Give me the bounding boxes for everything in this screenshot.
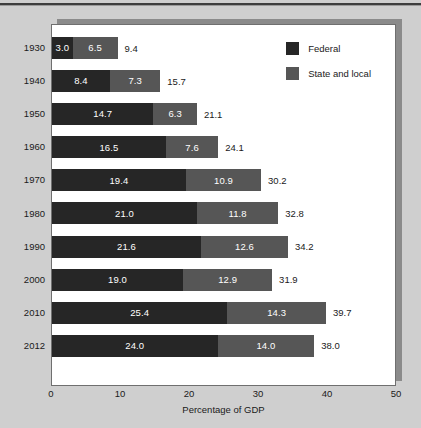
bar-total-label: 38.0	[321, 335, 340, 357]
bar-row: 21.612.634.2	[52, 231, 395, 264]
y-axis-category-labels: 1930194019501960197019801990200020102012	[0, 31, 49, 362]
stacked-bar[interactable]: 19.410.9	[52, 169, 261, 191]
bar-segment-value-label: 7.6	[185, 143, 199, 153]
bar-segment-value-label: 6.5	[88, 43, 102, 53]
y-axis-label: 1940	[0, 64, 49, 97]
bar-segment-federal[interactable]: 21.0	[52, 202, 197, 224]
bar-segment-value-label: 14.0	[256, 341, 275, 351]
bar-segment-value-label: 21.0	[115, 209, 134, 219]
y-axis-label: 1990	[0, 230, 49, 263]
page-bottom-text-sliver	[0, 419, 421, 428]
y-axis-label: 1960	[0, 130, 49, 163]
legend-swatch-federal	[286, 42, 299, 55]
stacked-bar[interactable]: 19.012.9	[52, 269, 272, 291]
bar-segment-state-and-local[interactable]: 14.0	[218, 335, 315, 357]
top-rule-highlight	[0, 5, 421, 6]
bar-row: 21.011.832.8	[52, 197, 395, 230]
bar-segment-state-and-local[interactable]: 6.3	[153, 103, 196, 125]
bar-total-label: 24.1	[225, 136, 244, 158]
bar-total-label: 9.4	[125, 37, 138, 59]
bar-segment-federal[interactable]: 16.5	[52, 136, 166, 158]
bar-segment-value-label: 7.3	[128, 76, 142, 86]
stacked-bar[interactable]: 24.014.0	[52, 335, 314, 357]
bar-row: 19.410.930.2	[52, 164, 395, 197]
stacked-bar[interactable]: 21.011.8	[52, 202, 278, 224]
bar-segment-state-and-local[interactable]: 11.8	[197, 202, 278, 224]
bar-segment-value-label: 14.7	[93, 109, 112, 119]
y-axis-label: 1970	[0, 163, 49, 196]
bar-segment-state-and-local[interactable]: 14.3	[227, 302, 326, 324]
bar-segment-state-and-local[interactable]: 10.9	[186, 169, 261, 191]
legend-item-state-and-local: State and local	[286, 67, 371, 80]
y-axis-label: 2012	[0, 329, 49, 362]
stacked-bar[interactable]: 21.612.6	[52, 236, 288, 258]
bar-segment-value-label: 8.4	[74, 76, 88, 86]
x-axis-tick-label: 30	[253, 388, 264, 399]
bar-segment-value-label: 3.0	[56, 43, 70, 53]
x-axis-ticks: 01020304050	[51, 388, 396, 404]
bar-total-label: 21.1	[204, 103, 223, 125]
bar-row: 16.57.624.1	[52, 131, 395, 164]
bar-total-label: 31.9	[279, 269, 298, 291]
bar-segment-federal[interactable]: 3.0	[52, 37, 73, 59]
stacked-bar[interactable]: 16.57.6	[52, 136, 218, 158]
x-axis-tick-label: 40	[322, 388, 333, 399]
chart-figure: 1930194019501960197019801990200020102012…	[0, 0, 421, 428]
bar-segment-value-label: 10.9	[214, 176, 233, 186]
bar-segment-value-label: 12.9	[218, 275, 237, 285]
bar-row: 24.014.038.0	[52, 330, 395, 363]
bar-segment-value-label: 14.3	[267, 308, 286, 318]
bar-segment-value-label: 16.5	[99, 143, 118, 153]
bar-segment-federal[interactable]: 25.4	[52, 302, 227, 324]
bar-segment-state-and-local[interactable]: 6.5	[73, 37, 118, 59]
stacked-bar[interactable]: 25.414.3	[52, 302, 326, 324]
stacked-bar[interactable]: 3.06.5	[52, 37, 118, 59]
bar-segment-value-label: 12.6	[235, 242, 254, 252]
bar-segment-federal[interactable]: 14.7	[52, 103, 153, 125]
bar-segment-value-label: 21.6	[117, 242, 136, 252]
bar-segment-value-label: 6.3	[168, 109, 182, 119]
bar-total-label: 34.2	[295, 236, 314, 258]
legend-label-state-and-local: State and local	[308, 68, 371, 79]
bar-segment-federal[interactable]: 24.0	[52, 335, 218, 357]
stacked-bar[interactable]: 14.76.3	[52, 103, 197, 125]
y-axis-label: 1950	[0, 97, 49, 130]
bar-segment-state-and-local[interactable]: 12.9	[183, 269, 272, 291]
bar-row: 19.012.931.9	[52, 264, 395, 297]
x-axis-tick-label: 10	[115, 388, 126, 399]
legend-item-federal: Federal	[286, 42, 371, 55]
plot-area: 3.06.59.48.47.315.714.76.321.116.57.624.…	[52, 25, 395, 385]
y-axis-label: 2000	[0, 263, 49, 296]
bar-segment-state-and-local[interactable]: 7.3	[110, 70, 160, 92]
legend-label-federal: Federal	[308, 43, 340, 54]
bar-segment-value-label: 19.0	[108, 275, 127, 285]
bar-segment-state-and-local[interactable]: 7.6	[166, 136, 218, 158]
bar-row: 25.414.339.7	[52, 297, 395, 330]
bar-total-label: 39.7	[333, 302, 352, 324]
bar-segment-federal[interactable]: 8.4	[52, 70, 110, 92]
x-axis-title: Percentage of GDP	[51, 404, 396, 415]
bar-segment-value-label: 11.8	[229, 209, 247, 219]
bar-segment-value-label: 24.0	[125, 341, 144, 351]
y-axis-label: 1980	[0, 196, 49, 229]
chart-legend: Federal State and local	[286, 42, 371, 92]
stacked-bar[interactable]: 8.47.3	[52, 70, 160, 92]
bar-total-label: 15.7	[167, 70, 186, 92]
x-axis-tick-label: 50	[391, 388, 402, 399]
bar-total-label: 32.8	[285, 202, 304, 224]
legend-swatch-state-and-local	[286, 67, 299, 80]
bar-segment-federal[interactable]: 21.6	[52, 236, 201, 258]
bar-segment-federal[interactable]: 19.0	[52, 269, 183, 291]
chart-plot-panel: 3.06.59.48.47.315.714.76.321.116.57.624.…	[51, 24, 396, 386]
bar-segment-federal[interactable]: 19.4	[52, 169, 186, 191]
bar-segment-value-label: 19.4	[109, 176, 128, 186]
y-axis-label: 2010	[0, 296, 49, 329]
bar-segment-state-and-local[interactable]: 12.6	[201, 236, 288, 258]
bar-segment-value-label: 25.4	[130, 308, 149, 318]
x-axis-tick-label: 20	[184, 388, 195, 399]
bar-row: 14.76.321.1	[52, 98, 395, 131]
y-axis-label: 1930	[0, 31, 49, 64]
bar-total-label: 30.2	[268, 169, 287, 191]
x-axis-tick-label: 0	[48, 388, 53, 399]
